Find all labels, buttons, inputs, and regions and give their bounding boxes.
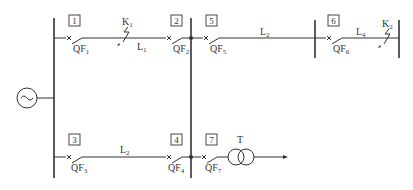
node-box-4: 4 (171, 134, 182, 145)
arrow-icon (283, 155, 288, 159)
node-box-1: 1 (69, 15, 80, 26)
node-box-2: 2 (171, 15, 182, 26)
svg-text:3: 3 (72, 135, 77, 145)
svg-text:5: 5 (209, 16, 214, 26)
label-transformer: T (237, 134, 243, 145)
svg-text:2: 2 (174, 16, 179, 26)
label-l2-top: L2 (260, 26, 270, 39)
transformer-winding-icon (238, 149, 254, 165)
label-l1: L1 (137, 41, 147, 54)
fault-k2-icon (384, 29, 390, 44)
label-k2: K2 (382, 18, 393, 31)
svg-text:4: 4 (174, 135, 179, 145)
generator-source (17, 88, 54, 108)
label-qf7: QF7 (205, 162, 222, 175)
breaker-qf7-icon (202, 155, 206, 159)
breaker-qf4-icon (167, 155, 171, 159)
label-qf4: QF4 (168, 162, 185, 175)
label-qf3: QF3 (71, 162, 88, 175)
label-qf5: QF5 (210, 43, 227, 56)
node-box-5: 5 (206, 15, 217, 26)
svg-text:1: 1 (72, 16, 77, 26)
ac-wave-icon (21, 96, 33, 100)
node-box-6: 6 (328, 15, 339, 26)
label-qf2: QF2 (173, 43, 190, 56)
svg-text:7: 7 (209, 135, 214, 145)
svg-text:6: 6 (331, 16, 336, 26)
one-line-diagram: 1 2 5 6 3 4 7 QF1 QF2 QF5 QF6 QF3 QF4 QF… (0, 0, 413, 190)
label-l2-bottom: L2 (120, 144, 130, 157)
transformer-winding-icon (228, 149, 244, 165)
node-box-3: 3 (69, 134, 80, 145)
breaker-qf5-icon (204, 36, 208, 40)
label-qf1: QF1 (73, 43, 90, 56)
node-box-7: 7 (206, 134, 217, 145)
fault-k1-icon (123, 27, 129, 42)
label-l4: L4 (356, 26, 366, 39)
breaker-qf3-icon (67, 155, 71, 159)
label-qf6: QF6 (333, 43, 350, 56)
breaker-qf2-icon (167, 36, 171, 40)
breaker-qf1-icon (67, 36, 71, 40)
breaker-qf6-icon (327, 36, 331, 40)
